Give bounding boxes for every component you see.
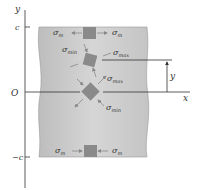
origin-label: O [11, 88, 19, 98]
height-label: y [169, 71, 176, 81]
x-axis-label: x [183, 93, 188, 103]
top-c-label: c [15, 23, 20, 32]
y-axis-label: y [14, 4, 21, 14]
bottom-c-label: −c [12, 153, 24, 162]
beam-stress-diagram: y c −c O x y σm σm σmin σmax σmax σmin [0, 0, 198, 190]
